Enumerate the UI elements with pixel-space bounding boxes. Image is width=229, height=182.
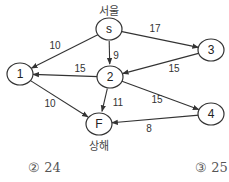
edge-3-to-2 [123, 53, 200, 74]
edge-weight-s-2: 9 [113, 50, 119, 61]
node-4: 4 [198, 103, 224, 125]
edge-s-to-2 [109, 41, 110, 64]
node-label: s [106, 22, 112, 36]
edge-weight-2-1: 15 [74, 63, 86, 74]
node-2: 2 [97, 66, 123, 88]
node-label: 3 [208, 43, 215, 57]
node-label: 1 [17, 67, 24, 81]
node-label: 4 [208, 107, 215, 121]
node-F: F [86, 113, 112, 135]
edge-weight-1-F: 10 [44, 98, 56, 109]
nodes-layer: s1234F [7, 18, 224, 135]
node-label: F [95, 117, 102, 131]
edge-s-to-3 [121, 31, 199, 47]
sink-city-label: 상해 [89, 139, 109, 153]
edge-2-to-1 [33, 74, 98, 76]
answer-choice-2: ② 24 [28, 160, 61, 175]
answer-choice-3: ③ 25 [195, 160, 228, 175]
edge-weight-4-F: 8 [146, 123, 152, 134]
node-label: 2 [107, 70, 114, 84]
edge-weight-s-3: 17 [149, 23, 161, 34]
edge-weight-2-4: 15 [151, 94, 163, 105]
flow-network-diagram: 1091715151011158 s1234F 서울상해 [0, 0, 229, 182]
source-city-label: 서울 [99, 5, 119, 18]
edge-weight-s-1: 10 [49, 40, 61, 51]
edge-s-to-1 [32, 34, 99, 68]
edge-4-to-F [112, 115, 199, 123]
edge-weight-3-2: 15 [168, 63, 180, 74]
edge-2-to-F [102, 89, 107, 112]
node-1: 1 [7, 63, 33, 85]
edge-weight-2-F: 11 [113, 97, 124, 108]
edge-1-to-F [30, 80, 88, 117]
node-3: 3 [198, 39, 224, 61]
node-s: s [96, 18, 122, 40]
